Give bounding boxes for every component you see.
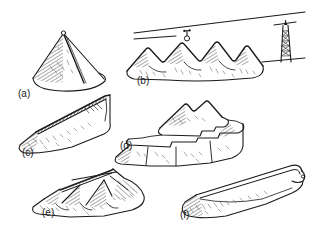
cone-row-saddle-1 — [149, 66, 166, 72]
panel-f-long-windrow-prism — [182, 165, 305, 218]
cone-row-saddle-2 — [184, 62, 201, 70]
wedge-far-slope — [105, 99, 107, 121]
figure-canvas: (a) (b) (c) (d) (e) (f) — [0, 0, 320, 238]
cone-shaded-flank — [33, 35, 63, 83]
panel-label-b: (b) — [137, 76, 149, 86]
prism-crest-lower — [200, 170, 300, 199]
merged-shading — [45, 179, 140, 207]
prism-end-marker — [301, 175, 304, 178]
ground-line-right — [262, 58, 305, 62]
panel-a-conical-stockpile — [33, 31, 105, 91]
terrace-face-break-3 — [210, 141, 212, 162]
cone-front-ridge-shadow — [66, 36, 86, 83]
merged-crest-second — [72, 172, 116, 180]
terrace-top-cone-shading — [166, 107, 186, 126]
cone-right-slope — [64, 34, 104, 79]
wedge-crest-shading — [37, 98, 106, 134]
cone-row-saddle-3 — [219, 61, 235, 70]
cone-row-shading — [133, 44, 249, 68]
terrace-bench-link-right — [228, 120, 243, 124]
ropeway-cable-left-end — [134, 36, 176, 39]
ropeway-carriage — [183, 29, 190, 41]
merged-scallop-1 — [56, 204, 68, 210]
panel-label-c: (c) — [22, 148, 34, 158]
panel-b-row-of-cones-under-ropeway — [127, 12, 305, 81]
panel-d-terraced-layered-pile — [115, 101, 244, 166]
cone-front-ridge — [64, 35, 84, 83]
stockpile-forms-drawing — [0, 0, 320, 238]
ropeway-upper-cable — [134, 12, 305, 33]
ropeway-lattice-tower — [274, 21, 296, 63]
terrace-bench-link — [129, 135, 162, 139]
panel-label-a: (a) — [18, 89, 30, 99]
terrace-face-break-1 — [146, 147, 148, 165]
panel-c-elongated-wedge-pile — [19, 95, 110, 153]
panel-label-e: (e) — [42, 208, 54, 218]
panel-label-f: (f) — [180, 210, 189, 220]
panel-label-d: (d) — [120, 141, 132, 151]
cone-apex-point — [61, 31, 65, 35]
terrace-right-lobe-shading — [218, 121, 236, 137]
wedge-crest-lower — [38, 99, 106, 134]
cone-row-texture — [140, 67, 255, 77]
